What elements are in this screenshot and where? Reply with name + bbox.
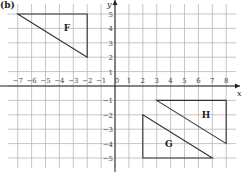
x-tick-label: 2 xyxy=(141,77,145,85)
shape-label-f: F xyxy=(64,23,71,33)
x-tick-label: 8 xyxy=(224,77,228,85)
x-tick-label: 7 xyxy=(210,77,214,85)
x-tick-label: −5 xyxy=(40,77,50,85)
x-tick-label: 6 xyxy=(196,77,201,85)
y-tick-label: 2 xyxy=(109,54,113,62)
x-axis-label: x xyxy=(237,89,242,98)
triangle-f xyxy=(18,14,88,57)
y-tick-label: 4 xyxy=(109,25,114,33)
y-tick-label: −1 xyxy=(103,97,113,105)
y-tick-label: 5 xyxy=(109,11,113,19)
x-tick-label: 0 xyxy=(115,77,119,85)
x-tick-label: −7 xyxy=(13,77,23,85)
tick-labels: −7−6−5−4−3−2−101234567854321−1−2−3−4−5 xyxy=(13,11,229,163)
shape-label-g: G xyxy=(165,139,173,149)
x-tick-label: 5 xyxy=(182,77,186,85)
x-tick-label: −2 xyxy=(82,77,92,85)
coordinate-grid: xy −7−6−5−4−3−2−101234567854321−1−2−3−4−… xyxy=(0,0,244,172)
shape-label-h: H xyxy=(202,110,211,120)
x-tick-label: 4 xyxy=(168,77,173,85)
y-tick-label: −4 xyxy=(103,141,114,149)
x-tick-label: 1 xyxy=(127,77,131,85)
y-tick-label: −3 xyxy=(103,126,113,134)
x-tick-label: −4 xyxy=(54,77,65,85)
x-tick-label: −6 xyxy=(26,77,37,85)
y-tick-label: 1 xyxy=(109,69,113,77)
y-axis-label: y xyxy=(106,0,112,9)
y-tick-label: −2 xyxy=(103,112,113,120)
x-tick-label: −3 xyxy=(68,77,78,85)
y-tick-label: 3 xyxy=(109,40,113,48)
triangle-h xyxy=(157,100,227,143)
x-tick-label: 3 xyxy=(154,77,158,85)
part-label: (b) xyxy=(0,0,15,10)
y-tick-label: −5 xyxy=(103,155,113,163)
x-tick-label: −1 xyxy=(96,77,106,85)
triangle-g xyxy=(143,115,213,158)
